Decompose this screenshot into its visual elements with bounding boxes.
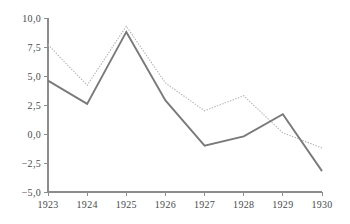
x-axis-tick-label: 1924 (77, 199, 98, 210)
line-chart: −5,0−2,50,02,55,07,510,0 192319241925192… (0, 0, 350, 224)
x-axis-tick-label: 1925 (116, 199, 137, 210)
y-axis-tick-label: −2,5 (22, 158, 41, 169)
chart-axes (48, 18, 322, 192)
x-axis-tick-label: 1923 (37, 199, 58, 210)
y-axis-tick-label: 10,0 (22, 13, 41, 24)
y-axis-tick-label: 5,0 (28, 71, 41, 82)
chart-plot-area (0, 0, 350, 224)
x-axis-tick-label: 1928 (233, 199, 254, 210)
y-axis-tick-label: 2,5 (28, 100, 41, 111)
x-axis-tick-label: 1926 (155, 199, 176, 210)
chart-tick-marks (44, 18, 322, 196)
chart-series-lines (48, 26, 322, 171)
series-line-dotted-series (48, 26, 322, 148)
y-axis-tick-label: −5,0 (22, 187, 41, 198)
x-axis-tick-label: 1927 (194, 199, 215, 210)
x-axis-tick-label: 1930 (311, 199, 332, 210)
x-axis-tick-label: 1929 (272, 199, 293, 210)
y-axis-tick-label: 7,5 (28, 42, 41, 53)
y-axis-tick-label: 0,0 (28, 129, 41, 140)
series-line-solid-series (48, 32, 322, 171)
